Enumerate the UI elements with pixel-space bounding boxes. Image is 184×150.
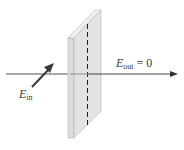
e-in-label: Ein: [19, 88, 33, 102]
e-in-vector: [32, 69, 49, 87]
arrowhead-right-icon: [170, 71, 178, 77]
e-out-label: Eout = 0: [116, 57, 152, 71]
polarizer-edge: [68, 38, 74, 138]
polarizer-diagram: [0, 0, 184, 150]
